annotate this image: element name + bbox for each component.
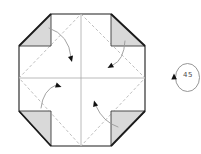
origami-step-diagram: 45 <box>0 0 201 154</box>
rotation-angle-label: 45 <box>181 71 195 80</box>
diagram-canvas <box>0 0 201 154</box>
